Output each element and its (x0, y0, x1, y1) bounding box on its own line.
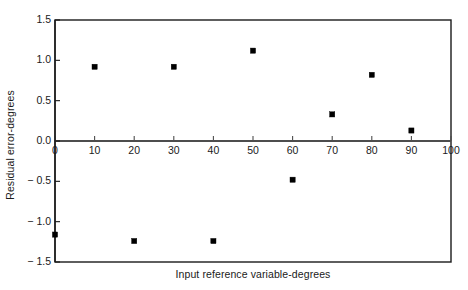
data-point-marker (52, 232, 57, 237)
data-point-marker (330, 112, 335, 117)
data-point-marker (132, 238, 137, 243)
data-point-marker (250, 48, 255, 53)
residual-error-scatter-chart: Residual error-degrees Input reference v… (0, 0, 468, 290)
data-point-marker (369, 72, 374, 77)
data-point-marker (211, 238, 216, 243)
plot-area (0, 0, 468, 290)
data-point-marker (409, 128, 414, 133)
data-point-marker (171, 64, 176, 69)
data-point-marker (92, 64, 97, 69)
data-points (52, 48, 414, 244)
data-point-marker (290, 177, 295, 182)
